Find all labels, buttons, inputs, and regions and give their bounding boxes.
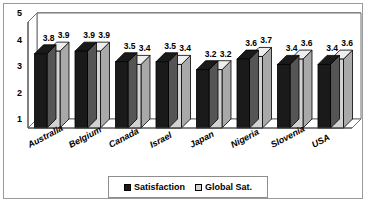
chart-legend: Satisfaction Global Sat.: [108, 176, 268, 198]
bar-value-label: 3.8: [43, 34, 55, 43]
bar-value-label: 3.7: [260, 36, 272, 45]
y-axis-tick-label: 1: [6, 115, 22, 124]
legend-label: Global Sat.: [205, 182, 252, 192]
y-axis-tick-label: 3: [6, 62, 22, 71]
x-axis-category-label: Japan: [188, 129, 216, 150]
legend-item-global-sat[interactable]: Global Sat.: [195, 182, 252, 192]
bar-value-label: 3.4: [139, 44, 151, 53]
bar-value-label: 3.6: [245, 39, 257, 48]
bar-value-label: 3.4: [286, 44, 298, 53]
bar-value-label: 3.6: [301, 39, 313, 48]
x-axis-category-label: Slovenia: [269, 124, 306, 150]
x-axis-category-label: Belgium: [67, 124, 103, 150]
legend-swatch-icon: [124, 184, 131, 191]
legend-item-satisfaction[interactable]: Satisfaction: [124, 182, 185, 192]
bar-value-label: 3.5: [124, 42, 136, 51]
x-axis-category-label: Australia: [26, 123, 65, 150]
bar-value-label: 3.5: [164, 42, 176, 51]
x-axis-category-label: USA: [310, 132, 331, 150]
x-axis-category-label: Israel: [148, 130, 173, 150]
legend-label: Satisfaction: [134, 182, 185, 192]
legend-swatch-icon: [195, 184, 202, 191]
y-axis-tick-label: 5: [6, 9, 22, 18]
x-axis-category-label: Canada: [107, 126, 140, 150]
bar-value-label: 3.9: [98, 31, 110, 40]
x-axis-category-label: Nigeria: [229, 127, 261, 150]
bar-value-label: 3.6: [341, 39, 353, 48]
y-axis-tick-label: 2: [6, 89, 22, 98]
bar-chart: 12345 AustraliaBelgiumCanadaIsraelJapanN…: [0, 0, 368, 210]
bar-value-label: 3.2: [220, 50, 232, 59]
bar-value-label: 3.2: [205, 50, 217, 59]
bar-value-label: 3.9: [58, 31, 70, 40]
bar-value-label: 3.4: [326, 44, 338, 53]
y-axis-tick-label: 4: [6, 36, 22, 45]
bar-value-label: 3.4: [179, 44, 191, 53]
bar-value-label: 3.9: [83, 31, 95, 40]
